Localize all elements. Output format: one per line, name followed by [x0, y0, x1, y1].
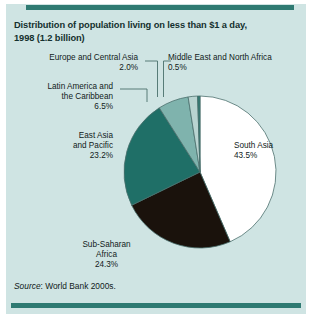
label-east-asia-pacific: East Asia and Pacific 23.2%	[18, 131, 113, 162]
label-middle-east-north-africa: Middle East and North Africa 0.5%	[168, 53, 304, 73]
label-south-asia: South Asia 43.5%	[234, 141, 304, 161]
label-sub-saharan-africa: Sub-Saharan Africa 24.3%	[55, 240, 158, 271]
label-europe-central-asia: Europe and Central Asia 2.0%	[18, 53, 138, 73]
source-value: : World Bank 2000s.	[41, 281, 116, 291]
source-label: Source	[14, 281, 41, 291]
leader-line-latin-america	[120, 89, 147, 102]
pie-slices	[124, 96, 276, 248]
figure-container: Distribution of population living on les…	[0, 0, 315, 321]
source-note: Source: World Bank 2000s.	[14, 281, 116, 291]
label-latin-america-caribbean: Latin America and the Caribbean 6.5%	[8, 82, 113, 113]
